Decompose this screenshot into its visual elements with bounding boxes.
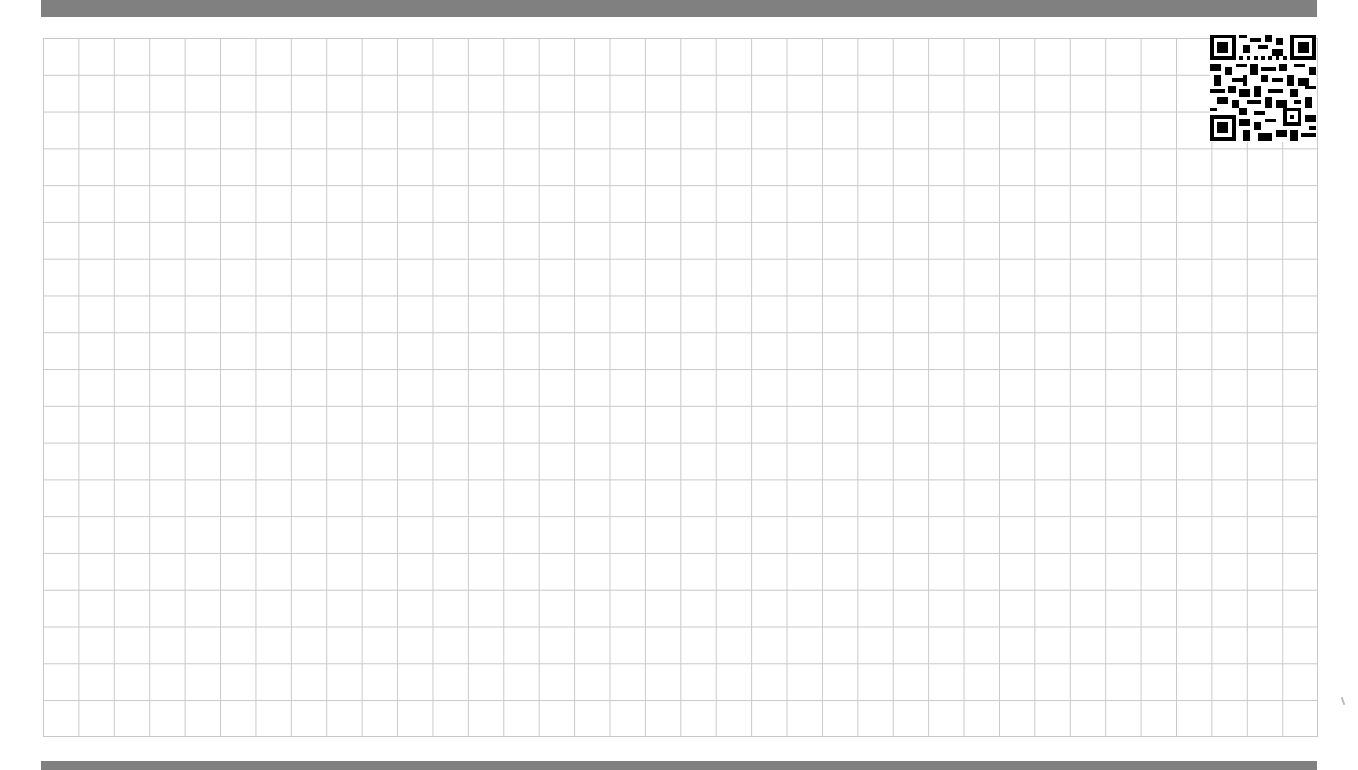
qr-code-icon: [1210, 33, 1316, 142]
stray-mark: [1341, 697, 1346, 705]
header-bar: [41, 0, 1317, 17]
grid-paper: [43, 38, 1318, 737]
footer-bar: [41, 761, 1317, 770]
